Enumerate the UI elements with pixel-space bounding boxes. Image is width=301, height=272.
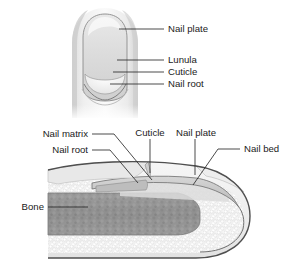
bone-group (48, 193, 200, 235)
finger-bottom-fade (66, 86, 144, 120)
bone-shading (48, 193, 200, 235)
nail-anatomy-figure: Nail plate Lunula Cuticle Nail root (0, 0, 301, 272)
label-cs-nail-plate: Nail plate (176, 127, 216, 138)
label-cs-nail-bed: Nail bed (244, 143, 279, 154)
label-top-nail-root: Nail root (168, 78, 204, 89)
label-cs-cuticle: Cuticle (135, 127, 164, 138)
label-top-cuticle: Cuticle (168, 66, 197, 77)
top-view-illustration (66, 8, 144, 120)
label-cs-nail-root: Nail root (52, 144, 88, 155)
label-top-nail-plate: Nail plate (168, 23, 208, 34)
label-top-lunula: Lunula (168, 54, 197, 65)
label-cs-bone: Bone (22, 201, 44, 212)
anatomy-illustration: Nail plate Lunula Cuticle Nail root (0, 0, 301, 272)
label-cs-nail-matrix: Nail matrix (43, 128, 89, 139)
